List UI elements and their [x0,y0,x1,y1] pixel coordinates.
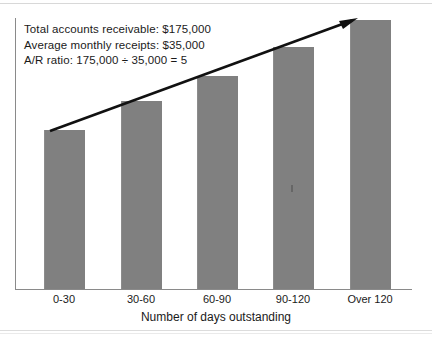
x-axis-title: Number of days outstanding [0,310,432,324]
bar-over-120 [350,20,391,289]
y-axis-line [15,18,16,290]
accounts-receivable-aging-chart: Total accounts receivable: $175,000 Aver… [0,0,432,342]
annotation-line-ar-ratio: A/R ratio: 175,000 ÷ 35,000 = 5 [24,53,211,69]
bar-60-90 [197,76,238,289]
tick-label-60-90: 60-90 [187,293,247,305]
annotation-line-average-receipts: Average monthly receipts: $35,000 [24,38,211,54]
tick-label-over-120: Over 120 [340,293,400,305]
page-rule-top [0,3,432,4]
tick-label-90-120: 90-120 [263,293,323,305]
bar-90-120 [273,47,314,289]
bar-30-60 [121,101,162,289]
tick-label-0-30: 0-30 [34,293,94,305]
page-rule-bottom [0,330,432,331]
page-rule-bottom-secondary [0,333,432,334]
scan-artifact-speck [291,185,293,192]
x-axis-line [15,289,412,290]
annotation-text-block: Total accounts receivable: $175,000 Aver… [24,22,211,69]
bar-0-30 [44,130,85,289]
tick-label-30-60: 30-60 [111,293,171,305]
annotation-line-total-receivable: Total accounts receivable: $175,000 [24,22,211,38]
